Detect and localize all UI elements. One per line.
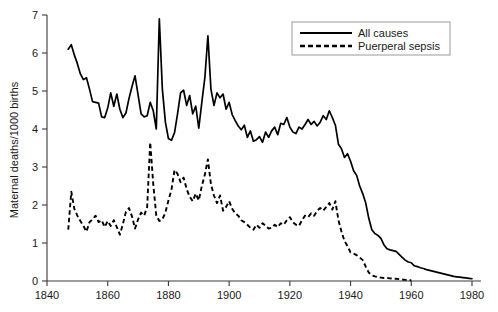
chart-legend: All causes Puerperal sepsis — [292, 22, 450, 55]
y-axis-title: Maternal deaths/1000 births — [8, 81, 20, 218]
legend-label-all-causes: All causes — [358, 27, 409, 39]
y-tick-label-3: 3 — [32, 161, 38, 173]
y-tick-label-5: 5 — [32, 85, 38, 97]
x-tick-label-1940: 1940 — [338, 289, 362, 301]
x-tick-label-1980: 1980 — [460, 289, 484, 301]
y-tick-label-2: 2 — [32, 199, 38, 211]
legend-label-puerperal-sepsis: Puerperal sepsis — [358, 40, 440, 52]
y-tick-label-0: 0 — [32, 275, 38, 287]
y-tick-label-6: 6 — [32, 47, 38, 59]
x-tick-label-1860: 1860 — [95, 289, 119, 301]
y-tick-label-4: 4 — [32, 123, 38, 135]
y-tick-label-1: 1 — [32, 237, 38, 249]
x-tick-label-1840: 1840 — [35, 289, 59, 301]
maternal-mortality-line-chart: Maternal deaths/1000 births 01234567 184… — [0, 0, 498, 312]
x-tick-label-1900: 1900 — [217, 289, 241, 301]
x-tick-label-1960: 1960 — [399, 289, 423, 301]
x-tick-label-1880: 1880 — [156, 289, 180, 301]
x-tick-label-1920: 1920 — [278, 289, 302, 301]
y-tick-label-7: 7 — [32, 9, 38, 21]
chart-container: Maternal deaths/1000 births 01234567 184… — [0, 0, 498, 312]
